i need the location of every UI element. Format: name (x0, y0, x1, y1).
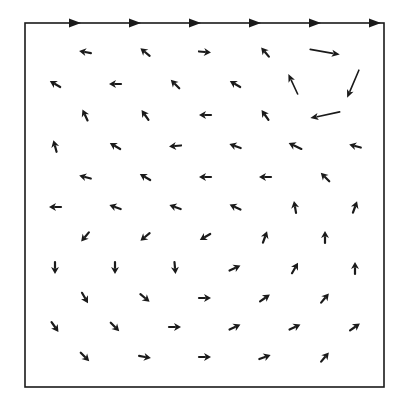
velocity-arrow-icon (168, 77, 182, 91)
velocity-arrow-icon (287, 139, 303, 152)
lid-arrow-icon (369, 19, 381, 28)
velocity-arrow-icon (228, 321, 242, 333)
velocity-arrow-icon (49, 203, 61, 211)
velocity-arrow-icon (351, 262, 359, 274)
velocity-vectors (48, 45, 362, 364)
velocity-arrow-icon (170, 262, 179, 275)
velocity-arrow-icon (348, 141, 362, 152)
velocity-arrow-icon (50, 139, 61, 153)
velocity-arrow-icon (51, 262, 59, 274)
velocity-arrow-icon (258, 351, 272, 363)
velocity-arrow-icon (48, 320, 61, 334)
velocity-arrow-icon (108, 140, 122, 153)
velocity-arrow-icon (78, 172, 92, 183)
velocity-arrow-icon (228, 201, 242, 213)
velocity-arrow-icon (199, 173, 211, 181)
velocity-arrow-icon (258, 108, 271, 122)
velocity-arrow-icon (318, 170, 332, 184)
velocity-arrow-icon (108, 320, 122, 334)
lid-arrow-icon (189, 19, 201, 28)
velocity-arrow-icon (290, 200, 300, 213)
velocity-arrow-icon (199, 47, 212, 56)
velocity-arrow-icon (109, 80, 121, 88)
velocity-arrow-icon (310, 108, 341, 121)
velocity-arrow-icon (228, 262, 242, 274)
velocity-arrow-icon (259, 230, 271, 244)
lid-arrow-icon (129, 19, 141, 28)
velocity-arrow-icon (349, 200, 361, 214)
velocity-arrow-icon (228, 140, 242, 152)
velocity-arrow-icon (199, 294, 211, 302)
velocity-arrow-icon (259, 173, 271, 181)
velocity-arrow-icon (321, 231, 329, 243)
velocity-arrow-icon (285, 73, 301, 96)
velocity-arrow-icon (344, 69, 362, 99)
velocity-arrow-icon (79, 108, 91, 122)
velocity-arrow-icon (138, 352, 151, 362)
velocity-arrow-icon (108, 201, 122, 213)
velocity-arrow-icon (78, 47, 91, 57)
velocity-arrow-icon (169, 323, 181, 331)
cavity-box-outline (25, 23, 384, 387)
velocity-arrow-icon (138, 171, 152, 184)
velocity-arrow-icon (78, 230, 92, 244)
lid-arrow-icon (309, 19, 321, 28)
velocity-arrow-icon (111, 262, 119, 274)
velocity-arrow-icon (78, 350, 92, 364)
velocity-arrow-icon (138, 108, 151, 122)
velocity-arrow-icon (318, 350, 332, 364)
velocity-arrow-icon (348, 320, 362, 333)
lid-arrow-icon (69, 19, 81, 28)
velocity-arrow-icon (310, 46, 341, 58)
velocity-arrow-icon (228, 78, 242, 91)
velocity-arrow-icon (168, 201, 182, 213)
velocity-arrow-icon (199, 111, 211, 119)
velocity-arrow-icon (198, 231, 212, 244)
velocity-arrow-icon (138, 230, 152, 244)
cavity-boundary (25, 23, 384, 387)
vector-field-diagram (0, 0, 401, 415)
velocity-arrow-icon (289, 261, 302, 275)
diagram-canvas (0, 0, 401, 415)
velocity-arrow-icon (79, 291, 92, 305)
velocity-arrow-icon (138, 291, 152, 305)
velocity-arrow-icon (258, 45, 272, 59)
lid-arrow-icon (249, 19, 261, 28)
velocity-arrow-icon (288, 321, 302, 333)
velocity-arrow-icon (318, 291, 332, 305)
velocity-arrow-icon (258, 291, 272, 304)
velocity-arrow-icon (169, 141, 182, 150)
velocity-arrow-icon (199, 353, 211, 361)
velocity-arrow-icon (138, 45, 152, 59)
velocity-arrow-icon (48, 78, 62, 91)
